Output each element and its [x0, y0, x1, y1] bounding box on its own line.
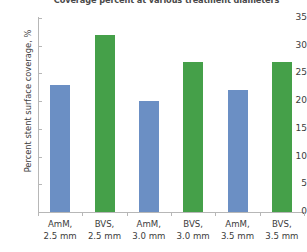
- x-axis-category-label: AmM,3.5 mm: [215, 219, 259, 242]
- x-tick-mark: [304, 212, 305, 216]
- x-label-line: AmM,: [215, 219, 259, 231]
- x-label-line: 3.5 mm: [215, 231, 259, 243]
- x-label-line: 3.0 mm: [171, 231, 215, 243]
- x-axis-category-label: BVS,2.5 mm: [82, 219, 126, 242]
- bar: [272, 62, 292, 212]
- bar: [95, 35, 115, 212]
- bar: [183, 62, 203, 212]
- x-tick-mark: [215, 212, 216, 216]
- x-label-line: BVS,: [82, 219, 126, 231]
- x-tick-mark: [127, 212, 128, 216]
- x-label-line: 2.5 mm: [38, 231, 82, 243]
- chart-title: Coverage percent at various treatment di…: [26, 0, 307, 5]
- y-axis-title: Percent stent surface coverage, %: [23, 11, 33, 191]
- x-label-line: AmM,: [38, 219, 82, 231]
- bar: [139, 101, 159, 212]
- x-axis-category-label: BVS,3.5 mm: [260, 219, 304, 242]
- bar: [228, 90, 248, 212]
- x-tick-mark: [82, 212, 83, 216]
- x-tick-mark: [38, 212, 39, 216]
- x-tick-mark: [260, 212, 261, 216]
- x-label-line: 2.5 mm: [82, 231, 126, 243]
- x-label-line: 3.0 mm: [127, 231, 171, 243]
- x-tick-mark: [171, 212, 172, 216]
- x-axis-category-label: AmM,3.0 mm: [127, 219, 171, 242]
- x-label-line: BVS,: [260, 219, 304, 231]
- plot-area: [38, 18, 304, 212]
- x-label-line: AmM,: [127, 219, 171, 231]
- bar: [50, 85, 70, 212]
- x-axis-category-label: AmM,2.5 mm: [38, 219, 82, 242]
- x-label-line: BVS,: [171, 219, 215, 231]
- bar-chart: Coverage percent at various treatment di…: [0, 0, 307, 252]
- x-axis-category-label: BVS,3.0 mm: [171, 219, 215, 242]
- x-label-line: 3.5 mm: [260, 231, 304, 243]
